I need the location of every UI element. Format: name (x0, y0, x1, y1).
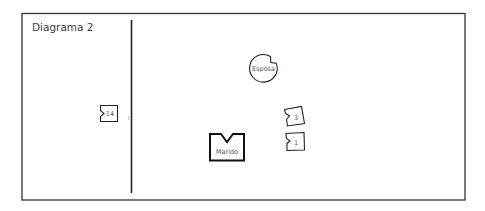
node-1-label: 1 (294, 139, 298, 147)
diagram-title: Diagrama 2 (32, 21, 94, 33)
node-1: 1 (286, 133, 305, 151)
node-3-label: 3 (294, 114, 298, 122)
node-14: 14 (101, 106, 118, 122)
esposa-label: Esposa (252, 65, 275, 73)
node-esposa: Esposa (250, 55, 278, 83)
diagram-canvas: Diagrama 2 Esposa Marido 3 1 14 (0, 0, 485, 211)
node-3: 3 (285, 107, 305, 127)
node-14-label: 14 (106, 110, 114, 118)
diagram-frame (22, 14, 465, 201)
marido-label: Marido (216, 148, 238, 156)
node-marido: Marido (210, 134, 244, 161)
diagram-svg: Diagrama 2 Esposa Marido 3 1 14 (0, 0, 485, 211)
